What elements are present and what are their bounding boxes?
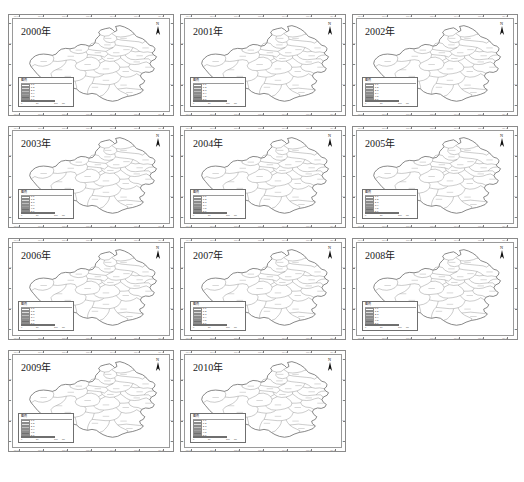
district-label — [275, 80, 281, 81]
panel-year-title: 2006年 — [21, 247, 52, 262]
scale-bar: 050100km — [365, 324, 415, 329]
graticule-tick — [191, 337, 192, 339]
district-label — [420, 162, 426, 163]
district-label — [103, 68, 109, 69]
scale-bar-tick-label: 100 — [226, 326, 230, 328]
map-panel[interactable]: 110°E110°E111°E111°E112°E112°E113°E113°E… — [8, 238, 174, 340]
district-label — [123, 161, 129, 162]
scale-bar-unit: km — [62, 326, 65, 328]
graticule-tick — [171, 441, 173, 442]
district-label — [314, 159, 320, 160]
district-label — [292, 38, 298, 39]
graticule-tick — [515, 217, 517, 218]
graticule-tick-label: 114°E — [110, 449, 115, 451]
graticule-tick — [115, 337, 116, 339]
graticule-tick — [171, 85, 173, 86]
district-label — [279, 282, 285, 283]
map-panel[interactable]: 110°E110°E111°E111°E112°E112°E113°E113°E… — [8, 14, 174, 116]
district-label — [400, 69, 406, 70]
graticule-tick-label: 113°E — [430, 337, 435, 339]
graticule-tick — [411, 337, 412, 339]
graticule-tick — [67, 113, 68, 115]
scale-bar: 050100km — [365, 100, 415, 105]
graticule-tick — [507, 337, 508, 339]
district-label — [464, 262, 470, 263]
district-label — [275, 292, 281, 293]
graticule-tick-label: 112°E — [234, 113, 239, 115]
graticule-tick — [311, 337, 312, 339]
north-arrow: N — [153, 134, 162, 149]
north-arrow: N — [325, 246, 334, 261]
district-label — [317, 67, 323, 68]
district-label — [76, 162, 82, 163]
district-label — [113, 164, 119, 165]
scale-bar-tick-label: 0 — [193, 326, 194, 328]
district-label — [308, 391, 314, 392]
district-label — [145, 291, 151, 292]
scale-bar-ticks: 050100km — [21, 438, 71, 441]
graticule-tick — [239, 449, 240, 451]
district-label — [295, 49, 301, 50]
map-panel[interactable]: 110°E110°E111°E111°E112°E112°E113°E113°E… — [352, 238, 518, 340]
north-arrow: N — [153, 246, 162, 261]
graticule-tick — [263, 225, 264, 227]
graticule-tick — [91, 337, 92, 339]
north-arrow: N — [325, 134, 334, 149]
map-panel[interactable]: 110°E110°E111°E111°E112°E112°E113°E113°E… — [180, 126, 346, 228]
graticule-tick — [343, 23, 345, 24]
map-panel[interactable]: 110°E110°E111°E111°E112°E112°E113°E113°E… — [8, 126, 174, 228]
graticule-tick — [343, 288, 345, 289]
graticule-tick-label: 115°E — [306, 225, 311, 227]
graticule-tick — [343, 217, 345, 218]
legend-title: 图例 — [21, 79, 72, 84]
district-label — [292, 421, 298, 422]
map-panel[interactable]: 110°E110°E111°E111°E112°E112°E113°E113°E… — [8, 350, 174, 452]
district-label — [448, 268, 454, 269]
graticule-tick — [335, 449, 336, 451]
graticule-tick-label: 113°E — [86, 449, 91, 451]
map-panel[interactable]: 110°E110°E111°E111°E112°E112°E113°E113°E… — [180, 14, 346, 116]
district-label — [467, 49, 473, 50]
district-label — [285, 276, 291, 277]
scale-bar: 050100km — [21, 212, 71, 217]
panel-year-title: 2009年 — [21, 359, 52, 374]
map-panel[interactable]: 110°E110°E111°E111°E112°E112°E113°E113°E… — [352, 14, 518, 116]
graticule-tick — [191, 449, 192, 451]
graticule-tick — [459, 225, 460, 227]
district-label — [295, 183, 301, 184]
graticule-tick-label: 111°E — [382, 225, 387, 227]
graticule-tick — [435, 337, 436, 339]
graticule-tick — [335, 113, 336, 115]
district-label — [40, 285, 46, 286]
legend-title: 图例 — [193, 415, 244, 420]
district-label — [447, 192, 453, 193]
graticule-tick-label: 116°E — [158, 337, 163, 339]
graticule-tick — [515, 64, 517, 65]
graticule-tick — [215, 113, 216, 115]
district-label — [134, 285, 140, 286]
district-label — [92, 199, 98, 200]
district-label — [467, 273, 473, 274]
graticule-tick — [515, 44, 517, 45]
scale-bar-tick-label: 50 — [36, 438, 38, 440]
north-arrow: N — [497, 246, 506, 261]
graticule-tick-label: 111°E — [210, 337, 215, 339]
scale-bar: 050100km — [193, 212, 243, 217]
map-panel[interactable]: 110°E110°E111°E111°E112°E112°E113°E113°E… — [180, 350, 346, 452]
district-label — [136, 279, 142, 280]
district-label — [107, 58, 113, 59]
district-label — [120, 197, 126, 198]
district-label — [240, 280, 246, 281]
map-panel-cell: 110°E110°E111°E111°E112°E112°E113°E113°E… — [8, 238, 180, 350]
district-label — [277, 374, 283, 375]
scale-bar-tick-label: 0 — [365, 214, 366, 216]
graticule-tick — [515, 23, 517, 24]
scale-bar-ticks: 050100km — [193, 102, 243, 105]
graticule-tick — [171, 309, 173, 310]
panel-year-title: 2003年 — [21, 135, 52, 150]
map-panel[interactable]: 110°E110°E111°E111°E112°E112°E113°E113°E… — [352, 126, 518, 228]
district-label — [486, 47, 492, 48]
graticule-tick — [287, 449, 288, 451]
graticule-tick-label: 111°E — [38, 337, 43, 339]
map-panel[interactable]: 110°E110°E111°E111°E112°E112°E113°E113°E… — [180, 238, 346, 340]
